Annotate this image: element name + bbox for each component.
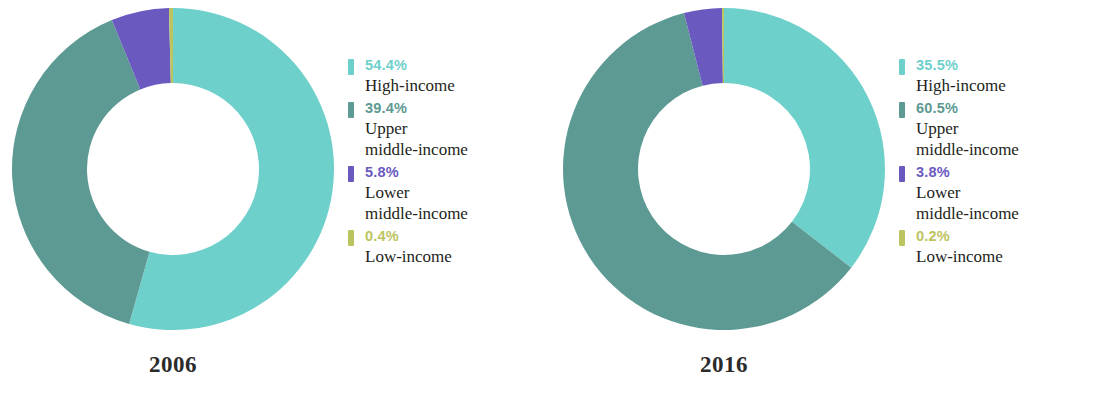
legend-item-lower-middle-income[interactable]: 3.8% Lower middle-income xyxy=(899,163,1089,224)
legend-percent-high-income: 35.5% xyxy=(916,56,1089,75)
legend-swatch-low-income xyxy=(899,230,905,246)
donut-slice[interactable] xyxy=(724,8,885,268)
legend-category-high-income: High-income xyxy=(916,75,1089,96)
legend-item-upper-middle-income[interactable]: 39.4% Upper middle-income xyxy=(348,99,538,160)
legend-category-low-income: Low-income xyxy=(916,246,1089,267)
legend-item-high-income[interactable]: 54.4% High-income xyxy=(348,56,538,96)
donut-svg-2016 xyxy=(559,0,889,344)
legend-swatch-low-income xyxy=(348,230,354,246)
year-label-2016: 2016 xyxy=(559,352,889,378)
donut-slices-2006 xyxy=(12,8,334,330)
figure-canvas: 2006 54.4% High-income 39.4% Upper middl… xyxy=(0,0,1103,396)
chart-panel-2006: 2006 54.4% High-income 39.4% Upper middl… xyxy=(0,0,551,396)
legend-swatch-high-income xyxy=(348,59,354,75)
legend-percent-low-income: 0.4% xyxy=(365,227,538,246)
legend-item-low-income[interactable]: 0.2% Low-income xyxy=(899,227,1089,267)
legend-category-lower-middle-income: Lower middle-income xyxy=(916,182,1089,224)
legend-swatch-high-income xyxy=(899,59,905,75)
legend-percent-lower-middle-income: 5.8% xyxy=(365,163,538,182)
legend-percent-upper-middle-income: 39.4% xyxy=(365,99,538,118)
legend-2016: 35.5% High-income 60.5% Upper middle-inc… xyxy=(899,56,1089,270)
legend-item-low-income[interactable]: 0.4% Low-income xyxy=(348,227,538,267)
year-label-2006: 2006 xyxy=(8,352,338,378)
legend-percent-high-income: 54.4% xyxy=(365,56,538,75)
legend-category-lower-middle-income: Lower middle-income xyxy=(365,182,538,224)
legend-2006: 54.4% High-income 39.4% Upper middle-inc… xyxy=(348,56,538,270)
donut-chart-2016 xyxy=(559,0,889,344)
legend-percent-lower-middle-income: 3.8% xyxy=(916,163,1089,182)
legend-item-high-income[interactable]: 35.5% High-income xyxy=(899,56,1089,96)
legend-swatch-upper-middle-income xyxy=(899,102,905,118)
donut-svg-2006 xyxy=(8,0,338,344)
legend-swatch-upper-middle-income xyxy=(348,102,354,118)
legend-category-low-income: Low-income xyxy=(365,246,538,267)
legend-swatch-lower-middle-income xyxy=(899,166,905,182)
donut-slices-2016 xyxy=(563,8,885,330)
legend-swatch-lower-middle-income xyxy=(348,166,354,182)
legend-item-upper-middle-income[interactable]: 60.5% Upper middle-income xyxy=(899,99,1089,160)
legend-category-high-income: High-income xyxy=(365,75,538,96)
donut-chart-2006 xyxy=(8,0,338,344)
legend-category-upper-middle-income: Upper middle-income xyxy=(365,118,538,160)
legend-item-lower-middle-income[interactable]: 5.8% Lower middle-income xyxy=(348,163,538,224)
donut-slice[interactable] xyxy=(12,20,150,324)
legend-percent-low-income: 0.2% xyxy=(916,227,1089,246)
legend-category-upper-middle-income: Upper middle-income xyxy=(916,118,1089,160)
legend-percent-upper-middle-income: 60.5% xyxy=(916,99,1089,118)
chart-panel-2016: 2016 35.5% High-income 60.5% Upper middl… xyxy=(551,0,1102,396)
